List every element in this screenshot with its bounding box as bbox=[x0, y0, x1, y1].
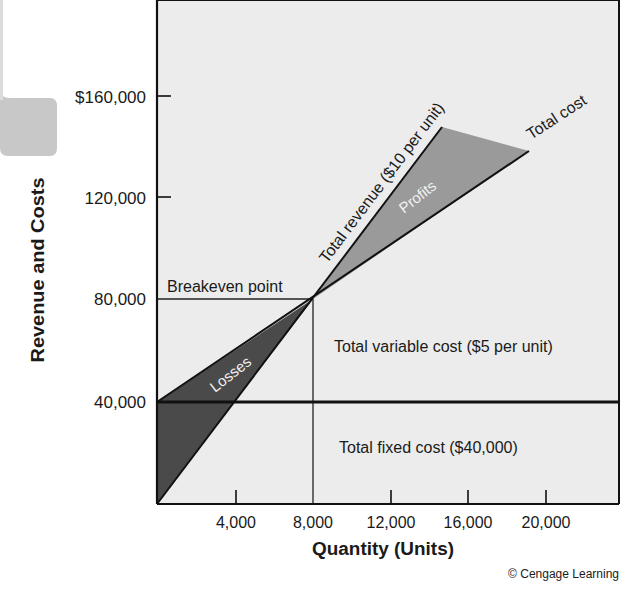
x-tick-label: 8,000 bbox=[293, 514, 333, 531]
x-tick-label: 16,000 bbox=[444, 514, 493, 531]
plot-area bbox=[157, 0, 619, 504]
y-tick-label: 40,000 bbox=[94, 393, 146, 412]
x-axis-title: Quantity (Units) bbox=[312, 539, 454, 559]
breakeven-chart: $160,000 120,000 80,000 40,000 4,000 8,0… bbox=[0, 0, 642, 598]
copyright-credit: © Cengage Learning bbox=[508, 567, 619, 581]
y-tick-label: 120,000 bbox=[85, 189, 146, 208]
side-tab-decoration bbox=[0, 0, 57, 156]
variable-cost-label: Total variable cost ($5 per unit) bbox=[334, 338, 553, 355]
x-tick-label: 4,000 bbox=[216, 514, 256, 531]
breakeven-label: Breakeven point bbox=[167, 278, 283, 295]
y-tick-label: $160,000 bbox=[75, 88, 146, 107]
side-edge bbox=[0, 0, 3, 100]
x-tick-label: 20,000 bbox=[522, 514, 571, 531]
y-axis-title: Revenue and Costs bbox=[28, 178, 48, 363]
x-tick-label: 12,000 bbox=[367, 514, 416, 531]
y-tick-label: 80,000 bbox=[94, 290, 146, 309]
fixed-cost-label: Total fixed cost ($40,000) bbox=[339, 439, 518, 456]
